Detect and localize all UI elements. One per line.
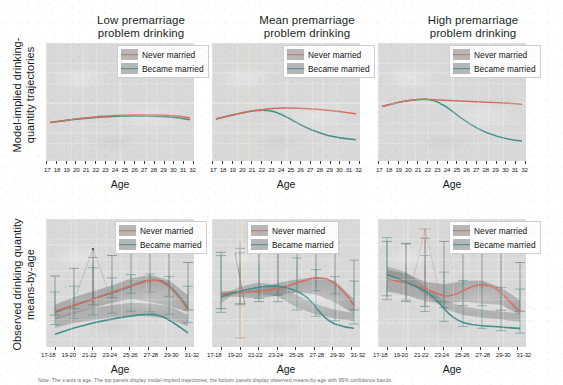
legend-bottom-high: Never married Became married [449, 221, 541, 254]
legend-row-never-married: Never married [119, 225, 202, 236]
xaxis-title-top-high: Age [378, 178, 526, 190]
legend-swatch-became-married [251, 239, 268, 250]
legend-bottom-mean: Never married Became married [247, 221, 339, 254]
legend-label-became-married: Became married [474, 64, 536, 74]
xaxis-title-bottom-high: Age [378, 363, 526, 375]
legend-top-mean: Never married Became married [283, 45, 375, 78]
legend-swatch-became-married [453, 239, 470, 250]
legend-swatch-never-married [119, 225, 136, 236]
xticks-top-high: 17 18 19 20 21 22 23 24 25 26 27 28 29 3… [376, 166, 528, 173]
xticks-bottom-mean: 17-18 19-20 21-22 23-24 25-26 27-28 29-3… [207, 352, 365, 358]
legend-label-became-married: Became married [142, 64, 204, 74]
legend-swatch-became-married [453, 63, 470, 74]
row-label-model-implied: Model-implied drinking- quantity traject… [11, 30, 36, 160]
legend-label-became-married: Became married [140, 240, 202, 250]
legend-label-became-married: Became married [308, 64, 370, 74]
legend-swatch-never-married [121, 49, 138, 60]
legend-top-low: Never married Became married [117, 45, 209, 78]
column-title-mean: Mean premarriage problem drinking [224, 14, 390, 40]
tickmarks-bottom-high [387, 347, 518, 350]
legend-swatch-never-married [251, 225, 268, 236]
xaxis-title-top-mean: Age [212, 178, 360, 190]
legend-label-never-married: Never married [308, 50, 361, 60]
legend-row-never-married: Never married [251, 225, 334, 236]
legend-swatch-became-married [119, 239, 136, 250]
legend-row-became-married: Became married [251, 239, 334, 250]
legend-row-never-married: Never married [287, 49, 370, 60]
xticks-bottom-low: 17-18 19-20 21-22 23-24 25-26 27-28 29-3… [41, 352, 199, 358]
legend-row-became-married: Became married [121, 63, 204, 74]
legend-label-never-married: Never married [142, 50, 195, 60]
legend-row-never-married: Never married [453, 49, 536, 60]
legend-swatch-never-married [453, 49, 470, 60]
legend-row-never-married: Never married [121, 49, 204, 60]
column-title-low: Low premarriage problem drinking [58, 14, 224, 40]
tickmarks-bottom-low [55, 347, 186, 350]
xticks-bottom-high: 17-18 19-20 21-22 23-24 25-26 27-28 29-3… [373, 352, 531, 358]
legend-label-became-married: Became married [272, 240, 334, 250]
figure-note: Note. The x-axis is age. The top panels … [38, 377, 538, 383]
legend-bottom-low: Never married Became married [115, 221, 207, 254]
legend-label-never-married: Never married [474, 50, 527, 60]
legend-row-became-married: Became married [453, 239, 536, 250]
xticks-top-low: 17 18 19 20 21 22 23 24 25 26 27 28 29 3… [44, 166, 196, 173]
column-title-high: High premarriage problem drinking [390, 14, 556, 40]
xaxis-title-bottom-mean: Age [212, 363, 360, 375]
row-label-observed: Observed drinking quantity means-by-age [11, 217, 36, 352]
legend-label-never-married: Never married [474, 226, 527, 236]
legend-swatch-became-married [287, 63, 304, 74]
legend-label-never-married: Never married [272, 226, 325, 236]
legend-top-high: Never married Became married [449, 45, 541, 78]
tickmarks-top-low [46, 161, 194, 164]
legend-swatch-never-married [453, 225, 470, 236]
tickmarks-top-high [378, 161, 526, 164]
figure-root: Low premarriage problem drinking Mean pr… [0, 0, 563, 385]
xaxis-title-top-low: Age [46, 178, 194, 190]
legend-label-became-married: Became married [474, 240, 536, 250]
legend-label-never-married: Never married [140, 226, 193, 236]
xticks-top-mean: 17 18 19 20 21 22 23 24 25 26 27 28 29 3… [210, 166, 362, 173]
legend-row-never-married: Never married [453, 225, 536, 236]
tickmarks-bottom-mean [221, 347, 352, 350]
legend-row-became-married: Became married [119, 239, 202, 250]
xaxis-title-bottom-low: Age [46, 363, 194, 375]
legend-row-became-married: Became married [287, 63, 370, 74]
legend-row-became-married: Became married [453, 63, 536, 74]
tickmarks-top-mean [212, 161, 360, 164]
legend-swatch-became-married [121, 63, 138, 74]
legend-swatch-never-married [287, 49, 304, 60]
